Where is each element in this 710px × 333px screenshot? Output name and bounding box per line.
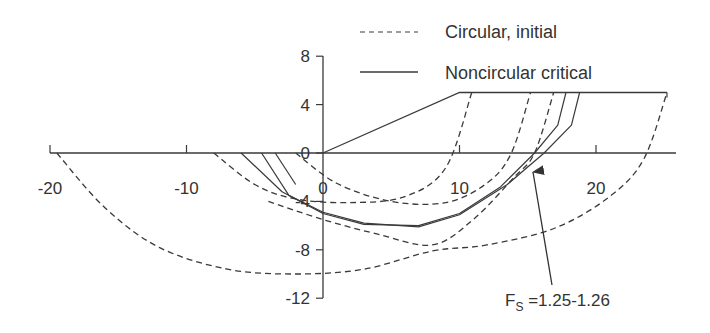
circular-initial-surface-2 <box>296 93 531 205</box>
slope-surface <box>323 93 667 154</box>
x-tick-label: -20 <box>38 179 63 198</box>
slip-surfaces <box>57 93 667 275</box>
y-tick-label: 4 <box>301 96 310 115</box>
annotation-arrow <box>533 172 552 285</box>
slope-profile-line <box>323 93 667 154</box>
circular-initial-surface-1 <box>214 93 472 203</box>
x-axis: -20-1001020 <box>38 145 676 198</box>
circular-initial-surface-0 <box>57 93 667 275</box>
y-tick-label: 8 <box>301 47 310 66</box>
annotation-label: FS =1.25-1.26 <box>505 291 610 314</box>
x-tick-label: 20 <box>587 179 606 198</box>
legend: Circular, initial Noncircular critical <box>360 22 592 83</box>
y-tick-label: -12 <box>285 289 310 308</box>
legend-label: Circular, initial <box>445 22 557 42</box>
circular-initial-surface-3 <box>268 93 553 246</box>
x-tick-label: -10 <box>174 179 199 198</box>
legend-item-noncircular-critical: Noncircular critical <box>360 63 592 83</box>
legend-label: Noncircular critical <box>445 63 592 83</box>
legend-item-circular-initial: Circular, initial <box>360 22 557 42</box>
y-tick-label: -8 <box>295 241 310 260</box>
noncircular-critical-surface-4 <box>241 93 566 226</box>
x-tick-label: 10 <box>450 179 469 198</box>
slope-stability-chart: -20-1001020 840-4-8-12 Circular, initial… <box>0 0 710 333</box>
